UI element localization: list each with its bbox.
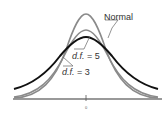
df3-label-prefix: d.f.: [62, 67, 75, 77]
df3-label-suffix: = 3: [75, 67, 90, 77]
df5-curve: [14, 30, 158, 97]
df5-label-suffix: = 5: [85, 51, 100, 61]
normal-leader-line: [105, 20, 118, 38]
normal-label: Normal: [104, 13, 133, 22]
zero-tick-label: 0: [85, 105, 87, 110]
df3-label: d.f. = 3: [62, 68, 90, 77]
normal-label-text: Normal: [104, 12, 133, 22]
t-distribution-figure: Normal d.f. = 5 d.f. = 3 0: [0, 0, 168, 119]
df5-label-prefix: d.f.: [72, 51, 85, 61]
df5-label: d.f. = 5: [72, 52, 100, 61]
